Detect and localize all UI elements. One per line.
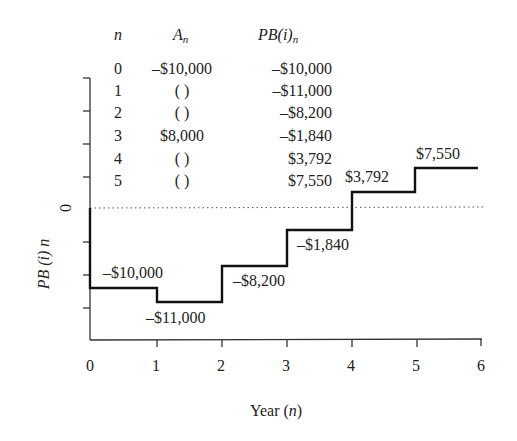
step-label: –$10,000 bbox=[103, 264, 163, 282]
table-header-pb: PB(i)n bbox=[258, 26, 298, 48]
table-cell: $8,000 bbox=[140, 127, 224, 145]
zero-line bbox=[90, 207, 485, 208]
table-cell: –$10,000 bbox=[140, 60, 224, 78]
table-cell: 3 bbox=[114, 127, 122, 145]
x-tick-label: 5 bbox=[412, 357, 420, 375]
table-header-an-sub: n bbox=[183, 33, 189, 45]
x-tick-label: 4 bbox=[347, 357, 355, 375]
x-axis-label-var: n bbox=[289, 402, 297, 419]
payback-step-chart: n An PB(i)n 0 –$10,000 –$10,000 1 ( ) –$… bbox=[0, 0, 517, 441]
table-cell: ( ) bbox=[140, 104, 224, 122]
table-cell: 0 bbox=[114, 60, 122, 78]
step-label: –$1,840 bbox=[297, 236, 349, 254]
y-axis-label: PB (i) n bbox=[35, 224, 53, 304]
table-cell: ( ) bbox=[140, 172, 224, 190]
x-axis bbox=[90, 339, 482, 340]
x-axis-label-prefix: Year ( bbox=[250, 402, 289, 419]
x-axis-label-suffix: ) bbox=[297, 402, 302, 419]
y-zero-label: 0 bbox=[57, 204, 75, 212]
table-cell: ( ) bbox=[140, 150, 224, 168]
step-label: $7,550 bbox=[416, 145, 460, 163]
table-cell: $7,550 bbox=[226, 172, 332, 190]
x-tick-label: 0 bbox=[86, 357, 94, 375]
table-cell: –$11,000 bbox=[226, 82, 332, 100]
table-cell: 2 bbox=[114, 104, 122, 122]
table-cell: ( ) bbox=[140, 82, 224, 100]
table-cell: $3,792 bbox=[226, 150, 332, 168]
table-header-n: n bbox=[114, 26, 122, 44]
table-cell: –$10,000 bbox=[226, 60, 332, 78]
table-header-pb-sub: n bbox=[293, 33, 299, 45]
x-axis-label: Year (n) bbox=[250, 402, 302, 420]
table-cell: 4 bbox=[114, 150, 122, 168]
table-header-an: An bbox=[173, 26, 188, 48]
table-cell: –$8,200 bbox=[226, 104, 332, 122]
table-header-pb-label: PB(i) bbox=[258, 26, 293, 43]
table-cell: 1 bbox=[114, 82, 122, 100]
table-header-an-label: A bbox=[173, 26, 183, 43]
table-cell: –$1,840 bbox=[226, 127, 332, 145]
x-tick-label: 3 bbox=[282, 357, 290, 375]
table-cell: 5 bbox=[114, 172, 122, 190]
step-label: $3,792 bbox=[345, 168, 389, 186]
x-tick-label: 2 bbox=[217, 357, 225, 375]
step-label: –$11,000 bbox=[146, 309, 205, 327]
x-tick-label: 1 bbox=[152, 357, 160, 375]
x-tick-label: 6 bbox=[477, 357, 485, 375]
step-label: –$8,200 bbox=[233, 272, 285, 290]
